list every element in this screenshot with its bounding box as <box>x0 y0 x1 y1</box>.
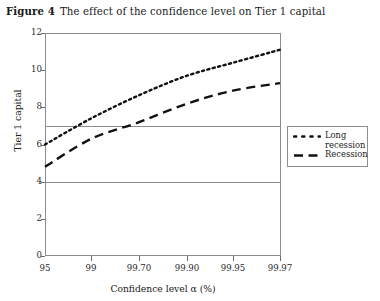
y-tick-label: 0 <box>37 251 42 260</box>
x-tick-label: 99 <box>86 263 97 273</box>
series-line <box>45 50 280 145</box>
x-tick-mark <box>280 256 281 261</box>
x-tick-mark <box>91 256 92 261</box>
x-tick-label: 99.97 <box>268 263 293 273</box>
chart: 024681012 959999.7099.9099.9599.97 Confi… <box>0 0 380 301</box>
legend-item: Long recession <box>293 131 365 150</box>
y-axis-title: Tier 1 capital <box>12 66 23 176</box>
x-tick-label: 95 <box>40 263 51 273</box>
legend-item: Recession <box>293 150 368 160</box>
x-tick-label: 99.90 <box>175 263 200 273</box>
y-tick-label: 8 <box>37 102 42 111</box>
x-tick-label: 99.70 <box>127 263 152 273</box>
x-tick-label: 99.95 <box>221 263 246 273</box>
y-tick-label: 6 <box>37 140 42 149</box>
y-tick-label: 4 <box>37 177 42 186</box>
y-tick-label: 12 <box>31 28 42 37</box>
legend-label: Long recession <box>325 131 365 150</box>
legend-label: Recession <box>325 150 368 160</box>
series-lines <box>45 33 281 256</box>
dashed-line-icon <box>293 151 321 160</box>
y-tick-label: 2 <box>37 214 42 223</box>
x-tick-mark <box>233 256 234 261</box>
x-axis-title: Confidence level α (%) <box>45 283 281 294</box>
x-tick-mark <box>139 256 140 261</box>
legend: Long recessionRecession <box>287 126 368 167</box>
figure-panel: Figure 4The effect of the confidence lev… <box>0 0 380 301</box>
dotted-line-icon <box>293 132 321 141</box>
x-tick-mark <box>187 256 188 261</box>
y-tick-label: 10 <box>31 65 42 74</box>
